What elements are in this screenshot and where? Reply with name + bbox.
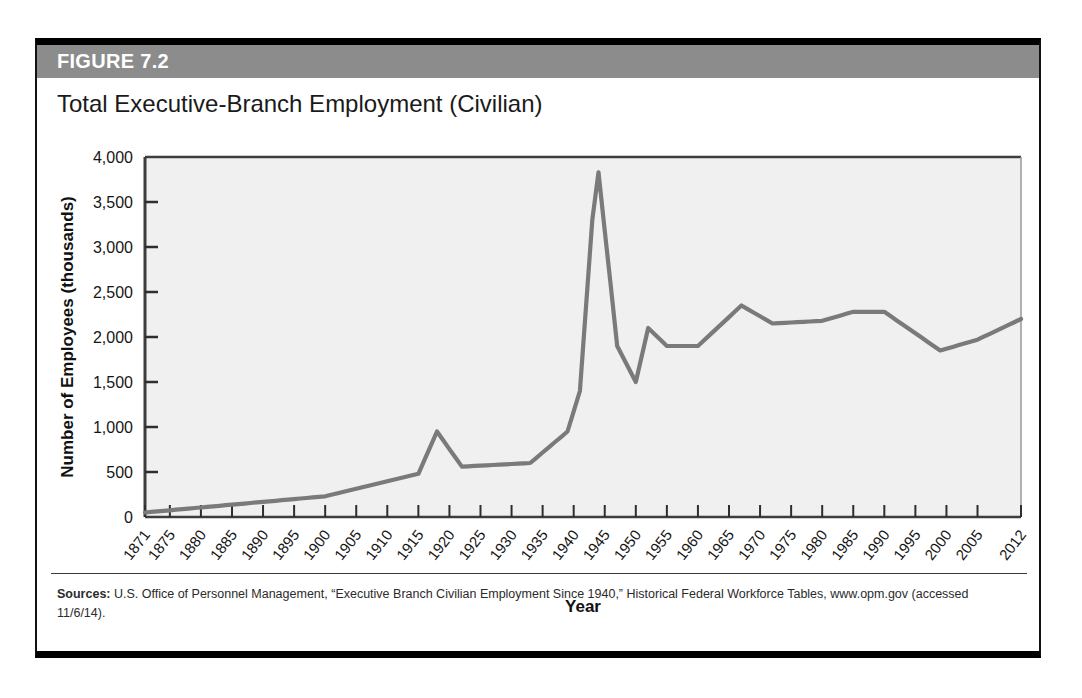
x-tick-label: 2000 — [921, 526, 955, 563]
y-tick-label: 4,000 — [93, 149, 133, 166]
x-tick-label: 1895 — [269, 526, 303, 563]
x-tick-label: 1880 — [175, 526, 209, 563]
x-tick-label: 1980 — [797, 526, 831, 563]
x-tick-label: 1905 — [331, 526, 365, 563]
x-tick-label: 1990 — [859, 526, 893, 563]
x-tick-label: 1925 — [455, 526, 489, 563]
y-axis-title: Number of Employees (thousands) — [58, 196, 77, 477]
source-prefix-label: Sources: — [57, 587, 111, 601]
x-tick-label: 1975 — [766, 526, 800, 563]
y-tick-label: 3,500 — [93, 194, 133, 211]
x-tick-label: 1885 — [206, 526, 240, 563]
x-tick-label: 1915 — [393, 526, 427, 563]
x-tick-label: 1945 — [579, 526, 613, 563]
x-tick-label: 1871 — [119, 526, 153, 563]
y-tick-label: 1,500 — [93, 374, 133, 391]
x-tick-label: 1935 — [517, 526, 551, 563]
x-tick-label: 1930 — [486, 526, 520, 563]
figure-container: FIGURE 7.2 Total Executive-Branch Employ… — [35, 38, 1041, 658]
source-text: U.S. Office of Personnel Management, “Ex… — [57, 587, 969, 620]
y-tick-label: 3,000 — [93, 239, 133, 256]
y-tick-label: 2,500 — [93, 284, 133, 301]
x-tick-label: 1875 — [144, 526, 178, 563]
y-tick-label: 0 — [124, 509, 133, 526]
line-chart: 05001,0001,5002,0002,5003,0003,5004,000N… — [37, 45, 1043, 665]
plot-area-wrapper: 05001,0001,5002,0002,5003,0003,5004,000N… — [37, 45, 1043, 665]
x-tick-label: 1910 — [362, 526, 396, 563]
x-tick-label: 1995 — [890, 526, 924, 563]
x-tick-label: 1900 — [300, 526, 334, 563]
x-tick-label: 2005 — [952, 526, 986, 563]
source-divider — [51, 573, 1027, 574]
x-tick-label: 2012 — [995, 526, 1029, 563]
x-tick-label: 1960 — [672, 526, 706, 563]
x-tick-label: 1985 — [828, 526, 862, 563]
x-tick-label: 1890 — [237, 526, 271, 563]
x-tick-label: 1920 — [424, 526, 458, 563]
x-tick-label: 1950 — [610, 526, 644, 563]
source-note: Sources: U.S. Office of Personnel Manage… — [57, 585, 1017, 624]
x-tick-label: 1970 — [734, 526, 768, 563]
y-tick-label: 1,000 — [93, 419, 133, 436]
x-tick-label: 1955 — [641, 526, 675, 563]
x-tick-label: 1940 — [548, 526, 582, 563]
x-tick-label: 1965 — [703, 526, 737, 563]
y-tick-label: 2,000 — [93, 329, 133, 346]
y-tick-label: 500 — [106, 464, 133, 481]
